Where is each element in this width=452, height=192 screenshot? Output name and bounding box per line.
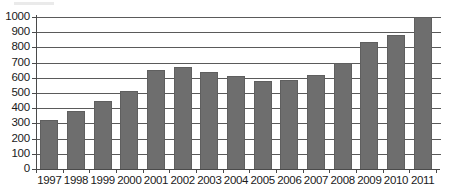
bar <box>307 75 325 169</box>
right-tick-mark <box>436 154 441 155</box>
x-axis-tick-label: 2008 <box>328 175 358 187</box>
bar <box>254 81 272 169</box>
x-axis-tick-label: 2003 <box>194 175 224 187</box>
y-axis-tick-label: 600 <box>0 72 30 84</box>
bar <box>94 101 112 169</box>
x-axis-tick-label: 1998 <box>61 175 91 187</box>
bar-chart-figure: 01002003004005006007008009001000 1997199… <box>0 0 452 192</box>
x-tick-mark <box>89 169 90 173</box>
x-tick-mark <box>63 169 64 173</box>
x-axis-line <box>36 169 440 170</box>
x-tick-mark <box>356 169 357 173</box>
x-axis-tick-label: 1997 <box>34 175 64 187</box>
x-tick-mark <box>169 169 170 173</box>
y-axis-tick-label: 300 <box>0 117 30 129</box>
right-tick-mark <box>436 139 441 140</box>
right-tick-mark <box>436 78 441 79</box>
bar <box>147 70 165 169</box>
y-axis-tick-label: 100 <box>0 148 30 160</box>
x-tick-mark <box>36 169 37 173</box>
x-axis-tick-label: 2011 <box>408 175 438 187</box>
x-axis-tick-label: 2009 <box>354 175 384 187</box>
x-tick-mark <box>409 169 410 173</box>
x-tick-mark <box>276 169 277 173</box>
y-axis-tick-label: 0 <box>0 163 30 175</box>
right-tick-mark <box>436 108 441 109</box>
x-tick-mark <box>249 169 250 173</box>
right-tick-mark <box>436 47 441 48</box>
y-axis-tick-label: 1000 <box>0 11 30 23</box>
right-tick-mark <box>436 63 441 64</box>
x-axis-tick-label: 2006 <box>274 175 304 187</box>
y-axis-tick-label: 800 <box>0 41 30 53</box>
x-tick-mark <box>303 169 304 173</box>
x-tick-mark <box>383 169 384 173</box>
x-axis-tick-label: 1999 <box>88 175 118 187</box>
y-axis-tick-label: 200 <box>0 133 30 145</box>
y-axis-tick-label: 400 <box>0 102 30 114</box>
x-axis-tick-label: 2001 <box>141 175 171 187</box>
scan-artifact <box>14 2 54 5</box>
x-axis-tick-label: 2005 <box>248 175 278 187</box>
x-tick-mark <box>116 169 117 173</box>
x-axis-tick-label: 2007 <box>301 175 331 187</box>
bar <box>174 67 192 169</box>
x-tick-mark <box>329 169 330 173</box>
bar <box>360 42 378 169</box>
bar <box>67 111 85 169</box>
right-tick-mark <box>436 93 441 94</box>
bar <box>280 80 298 169</box>
x-axis-tick-label: 2010 <box>381 175 411 187</box>
bar <box>40 120 58 169</box>
x-tick-mark <box>223 169 224 173</box>
x-tick-mark <box>143 169 144 173</box>
x-axis-tick-label: 2000 <box>114 175 144 187</box>
y-axis-tick-label: 700 <box>0 57 30 69</box>
bar <box>414 17 432 169</box>
bar <box>120 91 138 169</box>
x-axis-tick-label: 2004 <box>221 175 251 187</box>
right-tick-mark <box>436 123 441 124</box>
plot-area <box>36 17 436 169</box>
right-tick-mark <box>436 32 441 33</box>
y-axis-tick-label: 500 <box>0 87 30 99</box>
x-tick-mark <box>196 169 197 173</box>
right-tick-mark <box>436 17 441 18</box>
bar <box>387 35 405 169</box>
x-axis-tick-label: 2002 <box>168 175 198 187</box>
bar <box>227 76 245 169</box>
y-axis-tick-label: 900 <box>0 26 30 38</box>
bar <box>334 63 352 169</box>
x-tick-mark <box>436 169 437 173</box>
bar <box>200 72 218 169</box>
